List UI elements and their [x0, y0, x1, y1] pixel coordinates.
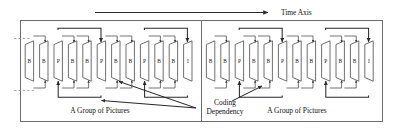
dep-arrow-up: [105, 36, 117, 42]
frame-label: B: [85, 58, 89, 64]
dep-arrow-up: [287, 36, 299, 42]
caption-group-left: A Group of Pictures: [70, 106, 129, 115]
dep-arrow-up: [77, 36, 89, 42]
dep-arrow-long-down: [239, 81, 282, 97]
frame-left-2: B: [40, 41, 48, 81]
frame-left-11: B: [169, 41, 177, 81]
frame-label: I: [368, 58, 370, 64]
time-axis-group: Time Axis: [95, 8, 312, 17]
callout-leader-a: [119, 82, 196, 109]
frame-left-1: B: [25, 41, 33, 81]
frame-right-7: B: [293, 41, 301, 81]
frame-label: B: [252, 58, 256, 64]
dep-arrow-long-up: [239, 28, 282, 42]
dep-arrow-down: [301, 80, 313, 88]
frame-left-12: I: [184, 41, 192, 81]
frame-label: B: [310, 58, 314, 64]
dep-arrow-down: [163, 80, 175, 88]
dep-arrow-up: [163, 36, 175, 42]
dep-arrow-up: [344, 36, 356, 42]
frame-label: P: [281, 58, 284, 64]
caption-coding-line2: Dependency: [207, 107, 244, 116]
frame-label: B: [353, 58, 357, 64]
frame-right-9: P: [322, 41, 330, 81]
frame-label: B: [28, 58, 32, 64]
dep-arrow-long-up: [58, 28, 101, 42]
dep-arrow-long-down: [58, 81, 101, 97]
frame-left-4: B: [68, 41, 76, 81]
dep-arrow-long-up: [326, 28, 369, 42]
gop-diagram: Time Axis B B P: [0, 0, 398, 133]
frame-label: B: [295, 58, 299, 64]
dep-arrow-down: [62, 80, 74, 88]
dep-arrow-long-up: [144, 28, 187, 42]
frame-label: B: [128, 58, 132, 64]
dep-arrow-up: [330, 36, 342, 42]
frame-label: B: [71, 58, 75, 64]
time-axis-label: Time Axis: [281, 8, 312, 17]
figure-root: Time Axis B B P: [0, 0, 398, 133]
frame-label: P: [57, 58, 60, 64]
frame-label: B: [114, 58, 118, 64]
frame-label: B: [223, 58, 227, 64]
dep-arrow-up: [120, 36, 132, 42]
dep-arrow-down: [149, 80, 161, 88]
dep-arrow-up: [149, 36, 161, 42]
frame-right-5: B: [264, 41, 272, 81]
frame-right-4: B: [250, 41, 258, 81]
dep-arrow-up: [62, 36, 74, 42]
frame-right-6: P: [278, 41, 286, 81]
frame-label: B: [266, 58, 270, 64]
frame-label: I: [187, 58, 189, 64]
callout-leaders: [102, 82, 263, 109]
dep-arrow-long-down: [145, 81, 188, 97]
frame-left-9: P: [140, 41, 148, 81]
frame-label: P: [238, 58, 241, 64]
dep-arrow-down: [330, 80, 342, 88]
frame-left-6: P: [97, 41, 105, 81]
frame-left-10: B: [155, 41, 163, 81]
frame-right-8: B: [307, 41, 315, 81]
dep-arrow-down: [344, 80, 356, 88]
dep-arrow-up: [243, 36, 255, 42]
frame-left-7: B: [112, 41, 120, 81]
dep-arrow-up: [258, 36, 270, 42]
frame-right-12: I: [365, 41, 373, 81]
frame-label: B: [209, 58, 213, 64]
caption-group-right: A Group of Pictures: [267, 106, 326, 115]
dep-arrow-up: [33, 36, 45, 42]
p-dependency-arrows-lower: [58, 81, 368, 97]
frame-right-3: P: [235, 41, 243, 81]
dep-arrow-up: [301, 36, 313, 42]
frame-left-8: B: [126, 41, 134, 81]
dep-arrow-up: [215, 36, 227, 42]
dep-arrow-down: [287, 80, 299, 88]
frame-right-11: B: [350, 41, 358, 81]
b-dependency-arrows-upper: [33, 36, 356, 42]
frame-left-5: B: [83, 41, 91, 81]
frame-label: B: [338, 58, 342, 64]
dep-arrow-down: [243, 80, 255, 88]
frame-label: B: [42, 58, 46, 64]
frame-right-1: B: [206, 41, 214, 81]
b-dependency-arrows-lower: [33, 80, 356, 88]
frame-right-2: B: [221, 41, 229, 81]
dep-arrow-down: [77, 80, 89, 88]
dep-arrow-long-down: [326, 81, 369, 97]
caption-coding-line1: Coding: [214, 98, 236, 107]
dep-arrow-down: [215, 80, 227, 88]
p-dependency-arrows-upper: [58, 28, 369, 42]
group-right-frames: B B P B B P B: [206, 41, 373, 81]
dep-arrow-down: [33, 80, 45, 88]
frame-label: P: [100, 58, 103, 64]
frame-label: B: [157, 58, 161, 64]
frame-left-3: P: [54, 41, 62, 81]
frame-label: B: [172, 58, 176, 64]
dep-arrow-down: [105, 80, 117, 88]
frame-label: P: [143, 58, 146, 64]
frame-label: P: [324, 58, 327, 64]
frame-right-10: B: [336, 41, 344, 81]
group-left-frames: B B P B B P B: [25, 41, 192, 81]
